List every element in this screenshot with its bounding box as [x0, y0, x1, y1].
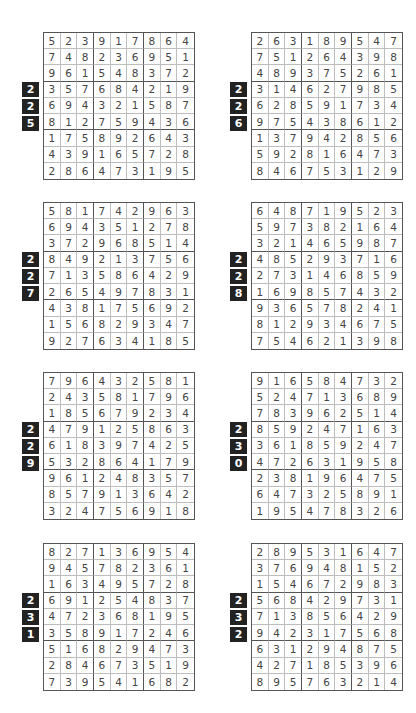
sudoku-cell: 8 [111, 389, 128, 405]
sudoku-cell: 7 [44, 373, 61, 389]
sudoku-cell: 3 [77, 389, 94, 405]
sudoku-cell: 2 [61, 503, 78, 519]
sudoku-cell: 1 [94, 544, 111, 560]
sudoku-cell: 9 [144, 503, 161, 519]
sudoku-cell: 6 [285, 373, 302, 389]
sudoku-cell: 3 [177, 641, 194, 657]
sudoku-cell: 1 [61, 114, 78, 130]
puzzle-number-badge: 227 [22, 252, 39, 301]
sudoku-cell: 3 [144, 317, 161, 333]
sudoku-cell: 6 [369, 65, 386, 81]
sudoku-cell: 2 [269, 389, 286, 405]
sudoku-cell: 9 [385, 163, 402, 179]
sudoku-cell: 2 [111, 422, 128, 438]
sudoku-cell: 9 [385, 609, 402, 625]
sudoku-cell: 7 [144, 147, 161, 163]
sudoku-cell: 4 [144, 438, 161, 454]
sudoku-grid: 9165847325247136897839625148592471633618… [251, 372, 403, 520]
sudoku-cell: 1 [127, 98, 144, 114]
sudoku-cell: 1 [369, 405, 386, 421]
sudoku-cell: 6 [352, 544, 369, 560]
sudoku-cell: 8 [385, 454, 402, 470]
sudoku-cell: 3 [269, 300, 286, 316]
sudoku-cell: 1 [369, 114, 386, 130]
sudoku-cell: 6 [319, 49, 336, 65]
sudoku-cell: 7 [319, 300, 336, 316]
sudoku-grid: 8271369549457823611634957286912548374723… [43, 543, 195, 691]
sudoku-cell: 9 [252, 625, 269, 641]
sudoku-cell: 9 [77, 422, 94, 438]
sudoku-cell: 4 [44, 147, 61, 163]
sudoku-cell: 8 [352, 641, 369, 657]
sudoku-cell: 3 [61, 454, 78, 470]
sudoku-cell: 1 [44, 130, 61, 146]
sudoku-cell: 2 [111, 641, 128, 657]
sudoku-cell: 5 [94, 268, 111, 284]
sudoku-cell: 1 [144, 333, 161, 349]
sudoku-cell: 7 [144, 389, 161, 405]
puzzle-number-digit: 2 [22, 269, 39, 284]
sudoku-cell: 9 [44, 560, 61, 576]
sudoku-cell: 4 [385, 219, 402, 235]
sudoku-cell: 9 [177, 82, 194, 98]
sudoku-cell: 7 [252, 405, 269, 421]
sudoku-cell: 1 [61, 438, 78, 454]
sudoku-cell: 2 [335, 576, 352, 592]
sudoku-cell: 5 [319, 284, 336, 300]
sudoku-cell: 2 [144, 82, 161, 98]
sudoku-cell: 2 [127, 203, 144, 219]
sudoku-cell: 2 [77, 114, 94, 130]
sudoku-cell: 4 [369, 544, 386, 560]
sudoku-cell: 5 [335, 65, 352, 81]
sudoku-cell: 6 [285, 300, 302, 316]
sudoku-cell: 4 [94, 284, 111, 300]
sudoku-cell: 4 [144, 268, 161, 284]
sudoku-cell: 6 [94, 333, 111, 349]
sudoku-cell: 2 [352, 674, 369, 690]
sudoku-cell: 7 [127, 284, 144, 300]
sudoku-cell: 7 [285, 487, 302, 503]
sudoku-cell: 8 [161, 333, 178, 349]
sudoku-cell: 3 [385, 576, 402, 592]
sudoku-cell: 6 [44, 98, 61, 114]
sudoku-cell: 7 [252, 609, 269, 625]
sudoku-cell: 3 [285, 268, 302, 284]
sudoku-cell: 2 [319, 487, 336, 503]
sudoku-cell: 8 [127, 609, 144, 625]
sudoku-cell: 5 [269, 333, 286, 349]
sudoku-cell: 3 [352, 49, 369, 65]
sudoku-cell: 5 [385, 470, 402, 486]
sudoku-cell: 2 [177, 674, 194, 690]
sudoku-cell: 8 [77, 300, 94, 316]
puzzle-number-badge: 225 [22, 82, 39, 131]
sudoku-cell: 9 [111, 438, 128, 454]
sudoku-cell: 4 [144, 114, 161, 130]
sudoku-cell: 7 [177, 593, 194, 609]
sudoku-cell: 5 [369, 560, 386, 576]
sudoku-cell: 3 [285, 405, 302, 421]
sudoku-cell: 5 [61, 625, 78, 641]
sudoku-cell: 5 [177, 609, 194, 625]
sudoku-cell: 2 [61, 333, 78, 349]
sudoku-cell: 9 [335, 203, 352, 219]
sudoku-cell: 9 [77, 252, 94, 268]
sudoku-cell: 8 [369, 389, 386, 405]
sudoku-cell: 6 [111, 235, 128, 251]
puzzle-number-digit: 2 [22, 99, 39, 114]
sudoku-cell: 7 [127, 33, 144, 49]
sudoku-cell: 1 [111, 625, 128, 641]
sudoku-cell: 7 [44, 674, 61, 690]
sudoku-cell: 9 [319, 98, 336, 114]
sudoku-cell: 8 [369, 576, 386, 592]
sudoku-cell: 3 [44, 503, 61, 519]
sudoku-cell: 1 [77, 65, 94, 81]
sudoku-cell: 7 [352, 593, 369, 609]
sudoku-cell: 8 [177, 219, 194, 235]
sudoku-cell: 2 [369, 203, 386, 219]
sudoku-cell: 1 [385, 65, 402, 81]
sudoku-cell: 7 [369, 317, 386, 333]
sudoku-cell: 7 [369, 470, 386, 486]
sudoku-cell: 7 [127, 438, 144, 454]
sudoku-cell: 9 [61, 219, 78, 235]
sudoku-cell: 7 [77, 333, 94, 349]
